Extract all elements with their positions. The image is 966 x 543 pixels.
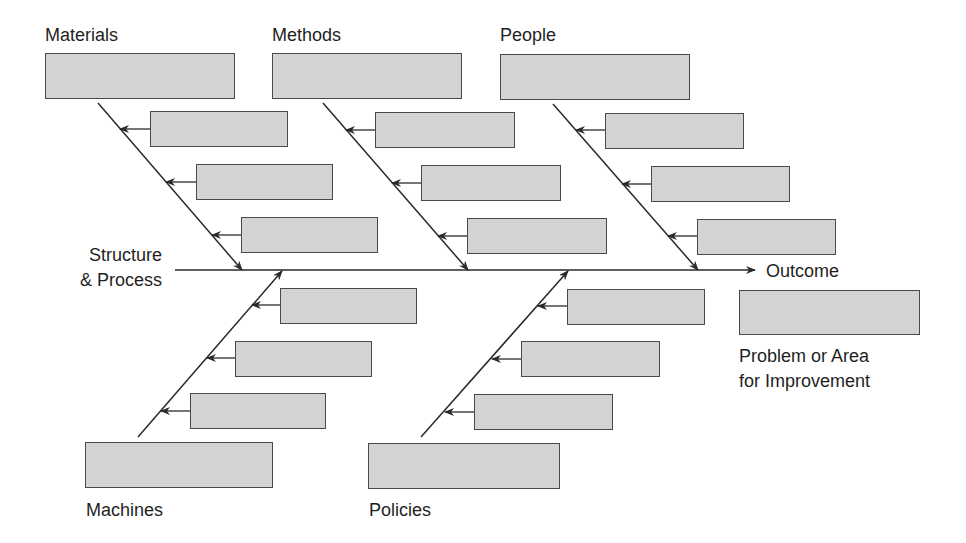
cause-box-methods-2[interactable] (421, 165, 561, 201)
outcome-caption-line1: Problem or Area (739, 345, 869, 367)
cause-box-machines-1[interactable] (280, 288, 417, 324)
outcome-label: Outcome (766, 260, 839, 282)
cause-box-policies-1[interactable] (567, 289, 705, 325)
cause-box-materials-2[interactable] (196, 164, 333, 200)
outcome-box[interactable] (739, 290, 920, 335)
fishbone-diagram: Materials Methods People Structure & Pro… (0, 0, 966, 543)
cause-box-materials-1[interactable] (150, 111, 288, 147)
cause-box-methods-3[interactable] (467, 218, 607, 254)
cause-box-methods-1[interactable] (375, 112, 515, 148)
cause-box-policies-2[interactable] (521, 341, 660, 377)
cause-box-machines-2[interactable] (235, 341, 372, 377)
cause-box-people-2[interactable] (651, 166, 790, 202)
category-label-materials: Materials (45, 24, 118, 46)
spine-label-line2: & Process (60, 269, 162, 291)
category-box-materials[interactable] (45, 53, 235, 99)
cause-box-people-3[interactable] (697, 219, 836, 255)
cause-box-people-1[interactable] (605, 113, 744, 149)
spine-label-line1: Structure (60, 244, 162, 266)
outcome-caption-line2: for Improvement (739, 370, 870, 392)
category-label-people: People (500, 24, 556, 46)
category-box-policies[interactable] (368, 443, 560, 489)
category-box-people[interactable] (500, 54, 690, 100)
category-label-methods: Methods (272, 24, 341, 46)
cause-box-policies-3[interactable] (474, 394, 613, 430)
category-box-methods[interactable] (272, 53, 462, 99)
category-label-machines: Machines (86, 499, 163, 521)
category-box-machines[interactable] (85, 442, 273, 488)
cause-box-machines-3[interactable] (190, 393, 326, 429)
cause-box-materials-3[interactable] (241, 217, 378, 253)
category-label-policies: Policies (369, 499, 431, 521)
